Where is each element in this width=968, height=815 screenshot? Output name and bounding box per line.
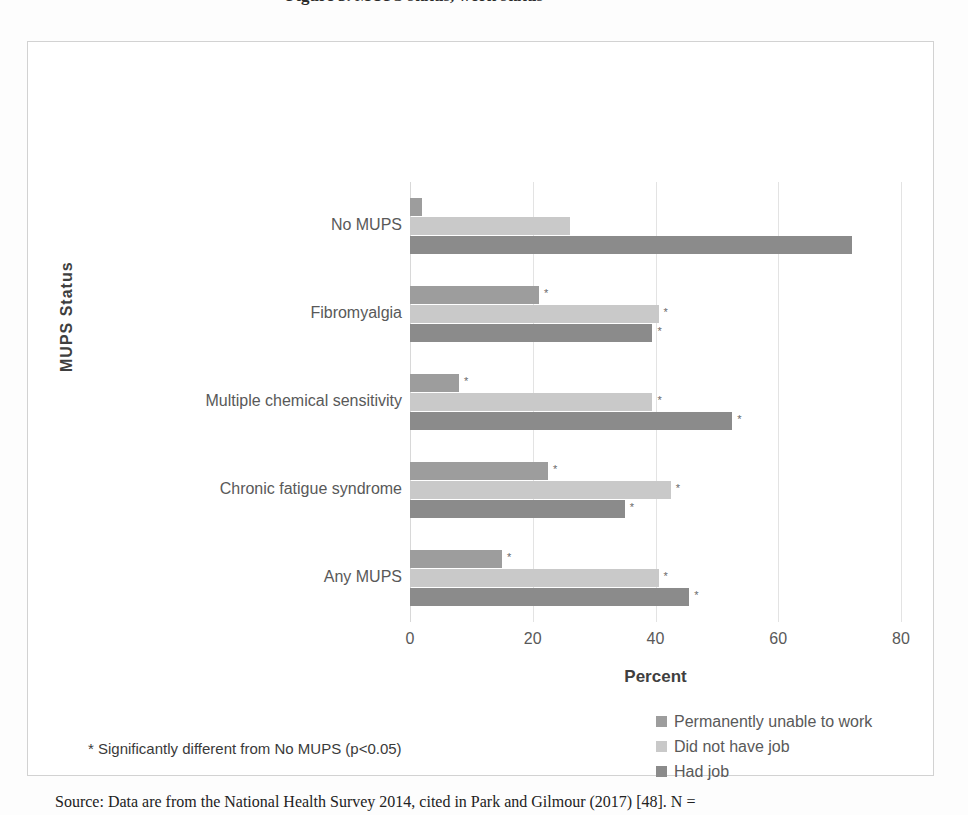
bar-row: * — [410, 374, 901, 392]
legend-item[interactable]: Had job — [656, 759, 872, 784]
bar[interactable] — [410, 500, 625, 518]
bar[interactable] — [410, 236, 852, 254]
bar[interactable] — [410, 286, 539, 304]
bar[interactable] — [410, 462, 548, 480]
bar[interactable] — [410, 588, 689, 606]
bar-row: * — [410, 588, 901, 606]
bar[interactable] — [410, 374, 459, 392]
bar-group — [410, 198, 901, 255]
x-axis-tick-label: 80 — [892, 630, 910, 648]
bar-row: * — [410, 550, 901, 568]
bar[interactable] — [410, 217, 570, 235]
bar[interactable] — [410, 198, 422, 216]
bar-row — [410, 198, 901, 216]
plot-area: ************ — [410, 182, 901, 622]
bar[interactable] — [410, 569, 659, 587]
significance-marker: * — [694, 588, 698, 602]
significance-marker: * — [657, 324, 661, 338]
bar-row: * — [410, 462, 901, 480]
x-axis-tick-labels: 020406080 — [410, 630, 901, 654]
bar-row — [410, 236, 901, 254]
x-axis-tick-label: 0 — [406, 630, 415, 648]
significance-marker: * — [657, 393, 661, 407]
legend-item[interactable]: Permanently unable to work — [656, 709, 872, 734]
gridline-80 — [901, 182, 902, 622]
legend-item[interactable]: Did not have job — [656, 734, 872, 759]
legend-swatch-icon — [656, 766, 667, 777]
figure-caption: Source: Data are from the National Healt… — [55, 793, 955, 811]
legend-label: Had job — [674, 763, 729, 781]
significance-marker: * — [464, 374, 468, 388]
y-axis-tick-label: Fibromyalgia — [102, 304, 402, 322]
bar-group: *** — [410, 462, 901, 519]
significance-marker: * — [553, 462, 557, 476]
bar[interactable] — [410, 550, 502, 568]
bar[interactable] — [410, 481, 671, 499]
significance-marker: * — [664, 569, 668, 583]
legend-swatch-icon — [656, 716, 667, 727]
bar-row: * — [410, 412, 901, 430]
chart-legend: Permanently unable to workDid not have j… — [656, 709, 872, 784]
x-axis-tick-label: 20 — [524, 630, 542, 648]
bar-row: * — [410, 481, 901, 499]
scanned-page: Figure 3. MUPS status, work status MUPS … — [0, 0, 968, 815]
bar-group: *** — [410, 374, 901, 431]
significance-marker: * — [737, 412, 741, 426]
legend-label: Permanently unable to work — [674, 713, 872, 731]
significance-footnote: * Significantly different from No MUPS (… — [88, 740, 402, 757]
bar-row: * — [410, 569, 901, 587]
bar-row: * — [410, 305, 901, 323]
bar-row: * — [410, 393, 901, 411]
y-axis-tick-label: Any MUPS — [102, 568, 402, 586]
bar-row: * — [410, 324, 901, 342]
bar[interactable] — [410, 412, 732, 430]
legend-label: Did not have job — [674, 738, 790, 756]
figure-title-clipped: Figure 3. MUPS status, work status — [0, 0, 968, 14]
bar[interactable] — [410, 324, 652, 342]
legend-swatch-icon — [656, 741, 667, 752]
figure-title-text: Figure 3. MUPS status, work status — [286, 0, 543, 6]
bar-row: * — [410, 500, 901, 518]
significance-marker: * — [630, 500, 634, 514]
bar-row: * — [410, 286, 901, 304]
significance-marker: * — [544, 286, 548, 300]
x-axis-tick-label: 40 — [647, 630, 665, 648]
bar[interactable] — [410, 305, 659, 323]
bar-group: *** — [410, 550, 901, 607]
y-axis-tick-label: Chronic fatigue syndrome — [102, 480, 402, 498]
x-axis-title: Percent — [410, 667, 901, 687]
chart-frame: MUPS Status No MUPSFibromyalgiaMultiple … — [27, 41, 934, 776]
bar-group: *** — [410, 286, 901, 343]
significance-marker: * — [664, 305, 668, 319]
y-axis-title: MUPS Status — [58, 261, 76, 372]
y-axis-tick-label: Multiple chemical sensitivity — [102, 392, 402, 410]
bar[interactable] — [410, 393, 652, 411]
significance-marker: * — [676, 481, 680, 495]
significance-marker: * — [507, 550, 511, 564]
y-axis-tick-labels: No MUPSFibromyalgiaMultiple chemical sen… — [96, 182, 402, 622]
y-axis-tick-label: No MUPS — [102, 216, 402, 234]
bar-row — [410, 217, 901, 235]
x-axis-tick-label: 60 — [769, 630, 787, 648]
